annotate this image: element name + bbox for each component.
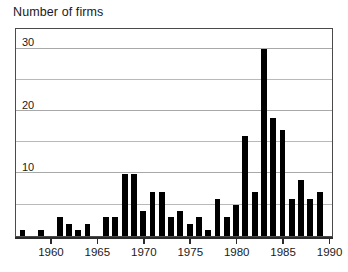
bar	[131, 174, 137, 236]
bar	[159, 192, 165, 236]
y-axis-tick-label: 20	[22, 99, 34, 111]
x-axis-line	[15, 237, 333, 239]
y-axis-tick-label: 30	[22, 36, 34, 48]
chart-axis-title: Number of firms	[13, 5, 103, 19]
x-axis-tick-label: 1990	[317, 246, 343, 258]
bar	[150, 192, 156, 236]
bar	[252, 192, 258, 236]
y-axis-tick-label: 10	[22, 161, 34, 173]
bar	[261, 49, 267, 236]
bar	[298, 180, 304, 236]
bar	[317, 192, 323, 236]
chart-figure: Number of firms 102030 19601965197019751…	[0, 0, 348, 272]
bar	[140, 211, 146, 236]
bar	[168, 217, 174, 236]
x-axis-tick-mark	[236, 239, 238, 244]
bar	[205, 230, 211, 236]
plot-area	[15, 28, 333, 237]
x-axis-tick-mark	[329, 239, 331, 244]
bar	[215, 199, 221, 236]
bar	[270, 118, 276, 236]
x-axis-tick-mark	[97, 239, 99, 244]
bar	[233, 205, 239, 236]
bar	[112, 217, 118, 236]
x-axis-tick-label: 1960	[38, 246, 64, 258]
x-axis-tick-label: 1980	[224, 246, 250, 258]
bar	[187, 224, 193, 236]
x-axis-tick-mark	[50, 239, 52, 244]
bar	[103, 217, 109, 236]
x-axis-tick-label: 1970	[131, 246, 157, 258]
x-axis-tick-mark	[143, 239, 145, 244]
bar	[57, 217, 63, 236]
bar-series	[16, 29, 332, 236]
bar	[122, 174, 128, 236]
plot-inner	[16, 29, 332, 236]
x-axis-tick-mark	[189, 239, 191, 244]
bar	[196, 217, 202, 236]
bar	[38, 230, 44, 236]
bar	[75, 230, 81, 236]
bar	[177, 211, 183, 236]
x-axis-tick-label: 1985	[270, 246, 296, 258]
bar	[307, 199, 313, 236]
bar	[20, 230, 26, 236]
bar	[280, 130, 286, 236]
bar	[242, 136, 248, 236]
bar	[85, 224, 91, 236]
bar	[289, 199, 295, 236]
bar	[224, 217, 230, 236]
x-axis-tick-label: 1975	[177, 246, 203, 258]
bar	[66, 224, 72, 236]
x-axis-tick-mark	[282, 239, 284, 244]
x-axis-tick-label: 1965	[85, 246, 111, 258]
